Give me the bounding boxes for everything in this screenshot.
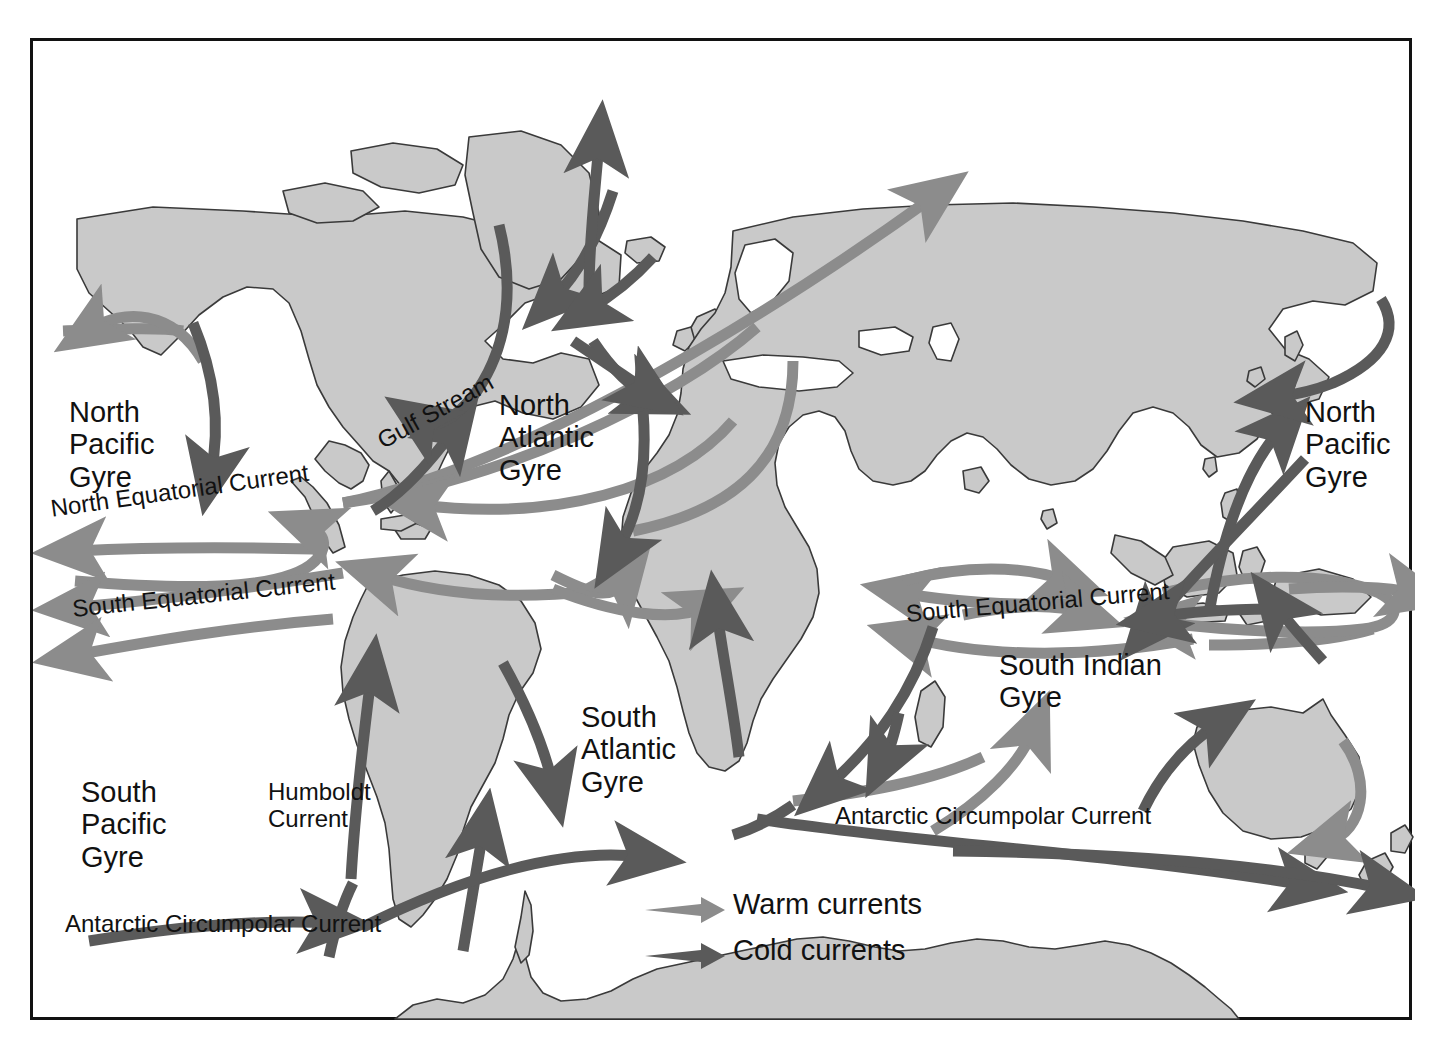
current-california xyxy=(193,323,215,473)
map-frame: North Pacific Gyre North Equatorial Curr… xyxy=(30,38,1412,1020)
land-antarctic-peninsula xyxy=(515,891,533,963)
legend: Warm currents Cold currents xyxy=(643,889,973,975)
ocean-currents-map xyxy=(33,41,1415,1023)
current-falkland xyxy=(463,831,483,951)
label-humboldt-current: Humboldt Current xyxy=(268,779,371,833)
legend-item-cold: Cold currents xyxy=(643,941,727,981)
figure-page: North Pacific Gyre North Equatorial Curr… xyxy=(0,0,1445,1051)
current-south-china xyxy=(1149,459,1305,627)
current-south-equatorial-pacific-2 xyxy=(75,619,333,655)
label-south-indian-gyre: South Indian Gyre xyxy=(999,649,1162,714)
label-south-atlantic-gyre: South Atlantic Gyre xyxy=(581,701,676,798)
land-new-zealand-north xyxy=(1391,825,1413,853)
arrow-right-icon xyxy=(643,941,727,971)
legend-label-warm: Warm currents xyxy=(733,888,922,921)
label-antarctic-circumpolar-current-left: Antarctic Circumpolar Current xyxy=(65,911,381,938)
legend-item-warm: Warm currents xyxy=(643,895,727,935)
land-sri-lanka xyxy=(1041,509,1057,529)
label-antarctic-circumpolar-current-right: Antarctic Circumpolar Current xyxy=(835,803,1151,830)
land-madagascar xyxy=(915,681,945,747)
current-north-equatorial-pacific-west xyxy=(75,548,313,551)
label-north-atlantic-gyre: North Atlantic Gyre xyxy=(499,389,594,486)
current-indian-monsoon-east xyxy=(903,569,1067,581)
land-australia xyxy=(1193,699,1363,839)
arrow-right-icon xyxy=(643,895,727,925)
land-tasmania xyxy=(1305,843,1327,869)
land-arabia-horn xyxy=(963,467,989,493)
current-equatorial-east-out xyxy=(1289,587,1413,593)
land-arctic-islands xyxy=(351,143,463,193)
land-taiwan xyxy=(1203,457,1217,477)
label-south-pacific-gyre: South Pacific Gyre xyxy=(81,776,166,873)
legend-label-cold: Cold currents xyxy=(733,934,905,967)
current-agulhas-return xyxy=(793,757,983,801)
label-north-pacific-gyre-west: North Pacific Gyre xyxy=(69,396,154,493)
label-north-pacific-gyre-east: North Pacific Gyre xyxy=(1305,396,1390,493)
